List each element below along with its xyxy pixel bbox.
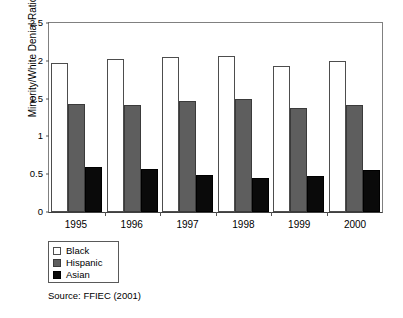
- legend-item-black: Black: [53, 245, 114, 257]
- x-axis-tick-mark: [271, 212, 272, 216]
- bar-group-1998: [216, 23, 272, 212]
- bar-black-1998: [218, 56, 235, 212]
- bar-group-bars: [216, 23, 272, 212]
- bar-group-2000: [327, 23, 383, 212]
- bar-hispanic-1995: [68, 104, 85, 212]
- legend-item-asian: Asian: [53, 269, 114, 281]
- legend-item-hispanic: Hispanic: [53, 257, 114, 269]
- bar-hispanic-2000: [346, 105, 363, 212]
- bar-black-1999: [273, 66, 290, 212]
- x-axis-tick-mark: [216, 212, 217, 216]
- bar-group-bars: [271, 23, 327, 212]
- plot-area: 00.511.522.5: [48, 22, 383, 213]
- bar-black-1995: [51, 63, 68, 212]
- bar-group-bars: [327, 23, 383, 212]
- x-axis-tick-labels: 199519961997199819992000: [48, 217, 383, 233]
- x-axis-tick-mark: [105, 212, 106, 216]
- y-axis-tick-mark: [46, 212, 49, 213]
- bar-hispanic-1998: [235, 99, 252, 212]
- x-axis-label-1998: 1998: [215, 217, 271, 233]
- bar-asian-2000: [363, 170, 380, 212]
- bar-group-1996: [105, 23, 161, 212]
- bar-asian-1996: [141, 169, 158, 212]
- bar-black-1997: [162, 57, 179, 212]
- chart-legend: Black Hispanic Asian: [48, 241, 119, 283]
- bar-asian-1999: [307, 176, 324, 212]
- x-axis-label-2000: 2000: [327, 217, 383, 233]
- bar-black-1996: [107, 59, 124, 212]
- x-axis-label-1999: 1999: [271, 217, 327, 233]
- y-axis-tick-mark: [46, 174, 49, 175]
- bar-asian-1995: [85, 167, 102, 212]
- legend-label-hispanic: Hispanic: [66, 257, 102, 269]
- legend-swatch-black-icon: [53, 247, 61, 255]
- x-axis-tick-mark: [327, 212, 328, 216]
- bar-asian-1997: [196, 175, 213, 212]
- bar-group-bars: [49, 23, 105, 212]
- y-axis-tick-mark: [46, 98, 49, 99]
- legend-swatch-hispanic-icon: [53, 259, 61, 267]
- x-axis-tick-mark: [160, 212, 161, 216]
- source-note: Source: FFIEC (2001): [48, 290, 141, 302]
- bar-black-2000: [329, 61, 346, 212]
- legend-label-black: Black: [66, 245, 89, 257]
- x-axis-label-1997: 1997: [160, 217, 216, 233]
- x-axis-label-1995: 1995: [48, 217, 104, 233]
- bar-group-bars: [160, 23, 216, 212]
- y-axis-tick-mark: [46, 23, 49, 24]
- bar-group-1995: [49, 23, 105, 212]
- bar-hispanic-1997: [179, 101, 196, 212]
- x-axis-label-1996: 1996: [104, 217, 160, 233]
- legend-label-asian: Asian: [66, 269, 90, 281]
- y-axis-tick-mark: [46, 60, 49, 61]
- bar-asian-1998: [252, 178, 269, 212]
- legend-swatch-asian-icon: [53, 271, 61, 279]
- bar-group-1999: [271, 23, 327, 212]
- y-axis-tick-mark: [46, 136, 49, 137]
- bar-chart-figure: Minority/White Denial Ratio 00.511.522.5…: [0, 0, 403, 318]
- bar-hispanic-1999: [290, 108, 307, 212]
- bar-group-1997: [160, 23, 216, 212]
- bar-group-bars: [105, 23, 161, 212]
- bar-groups: [49, 23, 382, 212]
- bar-hispanic-1996: [124, 105, 141, 212]
